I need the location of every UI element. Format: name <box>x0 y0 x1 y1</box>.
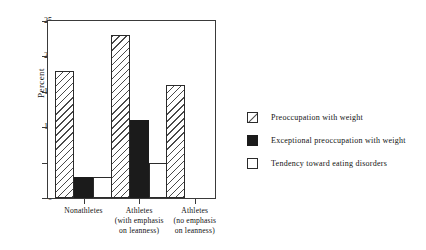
empty-square-icon <box>247 158 258 169</box>
bar <box>130 120 149 198</box>
x-axis-group-label-line: (no emphasis <box>149 216 241 226</box>
bar <box>149 163 168 198</box>
filled-square-icon <box>247 135 258 146</box>
x-tick-mark <box>84 199 85 204</box>
bar-chart-figure: Percent 0510152025 NonathletesAthletes(w… <box>0 0 426 250</box>
x-tick-mark <box>195 199 196 204</box>
bar <box>93 177 112 198</box>
x-axis-group-label: Athletes(no emphasison leanness) <box>149 206 241 236</box>
legend-item[interactable]: Exceptional preoccupation with weight <box>247 129 406 152</box>
chart-legend: Preoccupation with weightExceptional pre… <box>247 106 406 175</box>
x-tick-mark <box>139 199 140 204</box>
bar <box>74 177 93 198</box>
hatched-square-icon <box>247 112 258 123</box>
bars-layer <box>48 21 215 198</box>
legend-item[interactable]: Preoccupation with weight <box>247 106 406 129</box>
x-axis-group-label-line: on leanness) <box>149 226 241 236</box>
legend-label: Exceptional preoccupation with weight <box>271 136 406 145</box>
x-axis-group-label-line: Athletes <box>149 206 241 216</box>
legend-item[interactable]: Tendency toward eating disorders <box>247 152 406 175</box>
legend-label: Preoccupation with weight <box>271 113 363 122</box>
bar <box>111 35 130 198</box>
legend-label: Tendency toward eating disorders <box>271 159 387 168</box>
bar <box>166 85 185 198</box>
bar <box>55 71 74 198</box>
